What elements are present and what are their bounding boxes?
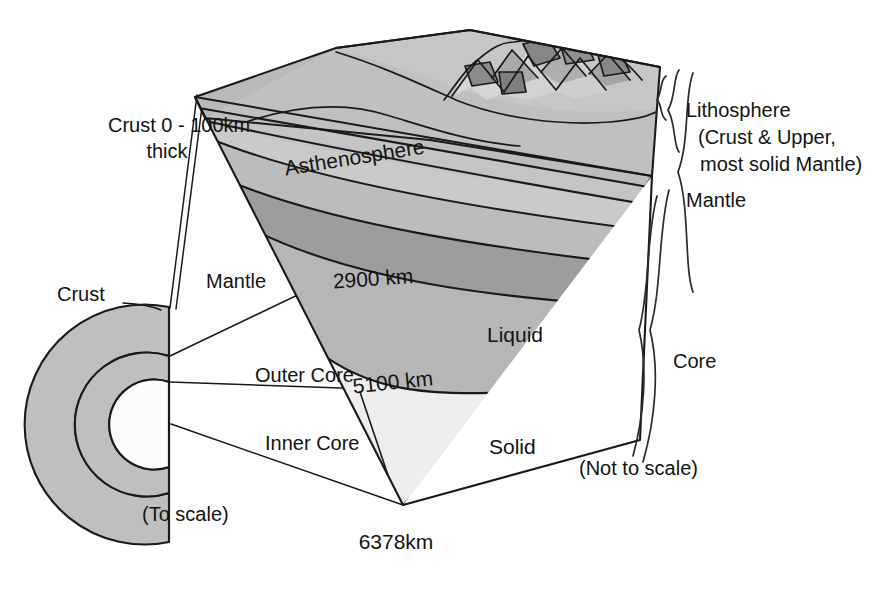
earth-structure-diagram: Crust 0 - 100km thick Crust Mantle Outer… xyxy=(0,0,888,601)
core-bracket xyxy=(643,190,669,462)
label-lithosphere-line3: most solid Mantle) xyxy=(700,153,862,175)
label-crust-thickness-line2: thick xyxy=(146,140,188,162)
label-solid: Solid xyxy=(489,435,536,458)
label-outer-core: Outer Core xyxy=(255,364,354,386)
label-to-scale: (To scale) xyxy=(142,503,229,525)
earth-cross-section-illustration: Crust 0 - 100km thick Crust Mantle Outer… xyxy=(0,0,888,601)
label-inner-core: Inner Core xyxy=(265,432,360,454)
label-mantle-bracket: Mantle xyxy=(686,189,746,211)
label-not-to-scale: (Not to scale) xyxy=(579,457,698,479)
label-radius-6378: 6378km xyxy=(359,530,434,553)
label-mantle-wedge: Mantle xyxy=(206,270,266,292)
label-lithosphere-line1: Lithosphere xyxy=(686,99,791,121)
label-core-bracket: Core xyxy=(673,350,716,372)
label-crust: Crust xyxy=(57,283,105,305)
wedge-bottom-right-edge xyxy=(520,392,640,440)
label-liquid: Liquid xyxy=(487,323,543,346)
label-crust-thickness-line1: Crust 0 - 100km xyxy=(108,114,250,136)
label-lithosphere-line2: (Crust & Upper, xyxy=(698,126,836,148)
lithosphere-bracket-outer xyxy=(668,70,679,152)
